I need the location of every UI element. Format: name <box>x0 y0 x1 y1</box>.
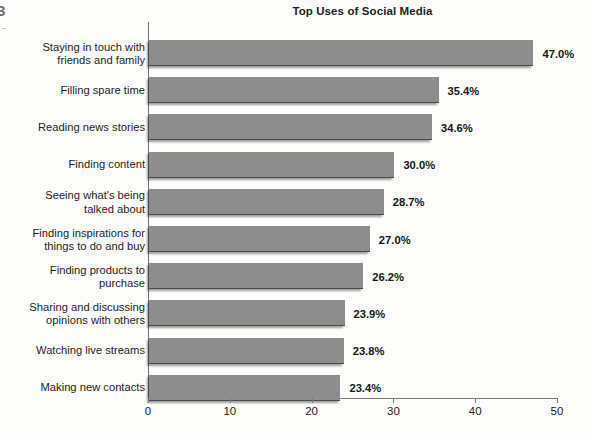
category-label: Sharing and discussing opinions with oth… <box>0 300 145 327</box>
bar-chart-plot: Staying in touch with friends and family… <box>0 0 590 438</box>
bar-value-label: 27.0% <box>379 234 411 246</box>
bar-row: Watching live streams23.8% <box>0 338 590 365</box>
bar <box>149 375 340 401</box>
category-label: Finding inspirations for things to do an… <box>0 226 145 253</box>
category-label: Finding products to purchase <box>0 263 145 290</box>
bar-value-label: 23.8% <box>353 345 385 357</box>
bar <box>149 77 439 103</box>
x-axis-tick <box>230 398 231 403</box>
bar-row: Finding products to purchase26.2% <box>0 263 590 290</box>
bar-row: Making new contacts23.4% <box>0 375 590 402</box>
bar-row: Finding inspirations for things to do an… <box>0 226 590 253</box>
bar-value-label: 23.4% <box>349 382 381 394</box>
x-axis-tick <box>475 398 476 403</box>
bar <box>149 300 345 326</box>
bar-value-label: 26.2% <box>372 271 404 283</box>
category-label: Reading news stories <box>0 121 145 135</box>
x-axis-tick <box>393 398 394 403</box>
bar-row: Finding content30.0% <box>0 152 590 179</box>
bar <box>149 226 370 252</box>
category-label: Staying in touch with friends and family <box>0 40 145 67</box>
x-axis-tick <box>312 398 313 403</box>
x-axis-tick-label: 50 <box>537 405 577 417</box>
bar-value-label: 30.0% <box>403 159 435 171</box>
x-axis-tick-label: 10 <box>210 405 250 417</box>
x-axis-tick-label: 40 <box>455 405 495 417</box>
bar <box>149 189 384 215</box>
bar <box>149 152 394 178</box>
x-axis-tick <box>557 398 558 403</box>
bar <box>149 338 344 364</box>
bar-value-label: 28.7% <box>393 196 425 208</box>
chart-page: 3 Top Uses of Social Media Staying in to… <box>0 0 590 438</box>
bar-row: Staying in touch with friends and family… <box>0 40 590 67</box>
bar-row: Seeing what's being talked about28.7% <box>0 189 590 216</box>
bar <box>149 263 363 289</box>
bar-value-label: 34.6% <box>441 122 473 134</box>
bar-value-label: 35.4% <box>448 85 480 97</box>
bar-row: Filling spare time35.4% <box>0 77 590 104</box>
bar-row: Reading news stories34.6% <box>0 114 590 141</box>
category-label: Finding content <box>0 158 145 172</box>
x-axis-tick-label: 0 <box>128 405 168 417</box>
bar <box>149 114 432 140</box>
category-label: Filling spare time <box>0 84 145 98</box>
bar-value-label: 47.0% <box>542 48 574 60</box>
bar-row: Sharing and discussing opinions with oth… <box>0 300 590 327</box>
x-axis-tick-label: 30 <box>373 405 413 417</box>
category-label: Making new contacts <box>0 382 145 396</box>
category-label: Watching live streams <box>0 344 145 358</box>
bar-value-label: 23.9% <box>354 308 386 320</box>
category-label: Seeing what's being talked about <box>0 189 145 216</box>
bar <box>149 40 533 66</box>
x-axis-tick-label: 20 <box>292 405 332 417</box>
x-axis-tick <box>148 398 149 403</box>
